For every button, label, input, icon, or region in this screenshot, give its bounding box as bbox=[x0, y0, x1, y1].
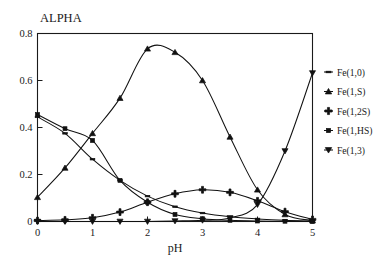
legend-item-label: Fe(1,3) bbox=[337, 145, 365, 157]
x-axis-title: pH bbox=[168, 241, 183, 255]
x-tick-label: 3 bbox=[200, 227, 205, 238]
data-point-square-icon bbox=[283, 219, 287, 223]
chart-canvas: ALPHA 00.20.40.60.8 012345 pH Fe(1,0)Fe(… bbox=[0, 0, 390, 266]
data-point-square-icon bbox=[146, 200, 150, 204]
data-point-square-icon bbox=[173, 213, 177, 217]
data-point-plus-icon bbox=[282, 208, 289, 215]
data-point-triangle-up-icon bbox=[172, 49, 178, 54]
legend-item-fe-1-0-[interactable]: Fe(1,0) bbox=[324, 67, 365, 79]
legend-item-fe-1-s-[interactable]: Fe(1,S) bbox=[324, 86, 366, 98]
data-point-square-icon bbox=[311, 220, 315, 224]
alpha-speciation-chart: ALPHA 00.20.40.60.8 012345 pH Fe(1,0)Fe(… bbox=[0, 0, 390, 266]
legend-item-label: Fe(1,S) bbox=[337, 86, 366, 98]
data-point-dash-icon bbox=[63, 133, 68, 135]
data-point-triangle-down-icon bbox=[282, 149, 288, 154]
x-tick-label: 2 bbox=[145, 227, 150, 238]
x-tick-label: 1 bbox=[90, 227, 95, 238]
data-point-triangle-down-icon bbox=[309, 71, 315, 76]
x-tick-label: 4 bbox=[255, 227, 261, 238]
data-point-triangle-up-icon bbox=[254, 187, 260, 192]
y-tick-label: 0.6 bbox=[19, 75, 32, 86]
y-tick-label: 0.4 bbox=[19, 122, 33, 133]
y-tick-label: 0.8 bbox=[19, 28, 32, 39]
data-point-dash-icon bbox=[145, 195, 150, 197]
data-markers-group bbox=[34, 46, 316, 225]
legend-item-fe-1-2s-[interactable]: Fe(1,2S) bbox=[324, 106, 370, 118]
data-point-square-icon bbox=[36, 113, 40, 117]
data-point-triangle-up-icon bbox=[227, 134, 233, 139]
legend: Fe(1,0)Fe(1,S)Fe(1,2S)Fe(1,HS)Fe(1,3) bbox=[324, 67, 372, 157]
data-point-dash-icon bbox=[200, 212, 205, 214]
y-axis-tick-labels: 00.20.40.60.8 bbox=[19, 28, 33, 227]
legend-marker-square-icon bbox=[326, 128, 330, 132]
data-point-plus-icon bbox=[227, 189, 234, 196]
legend-marker-dash-icon bbox=[326, 71, 331, 73]
legend-item-label: Fe(1,0) bbox=[337, 67, 365, 79]
page-title: ALPHA bbox=[40, 11, 82, 25]
legend-marker-plus-icon bbox=[325, 107, 332, 114]
data-point-square-icon bbox=[118, 178, 122, 182]
data-point-plus-icon bbox=[172, 190, 179, 197]
data-point-triangle-up-icon bbox=[199, 78, 205, 83]
data-point-square-icon bbox=[91, 138, 95, 142]
x-tick-label: 0 bbox=[35, 227, 40, 238]
data-point-square-icon bbox=[256, 219, 260, 223]
legend-item-fe-1-3-[interactable]: Fe(1,3) bbox=[324, 145, 365, 157]
data-point-dash-icon bbox=[173, 206, 178, 208]
x-axis-tick-labels: 012345 bbox=[35, 227, 315, 238]
y-tick-label: 0.2 bbox=[19, 169, 32, 180]
data-point-triangle-up-icon bbox=[117, 95, 123, 100]
data-point-square-icon bbox=[63, 127, 67, 131]
legend-item-label: Fe(1,HS) bbox=[337, 125, 372, 137]
data-point-plus-icon bbox=[199, 186, 206, 193]
legend-item-label: Fe(1,2S) bbox=[337, 106, 370, 118]
y-tick-label: 0 bbox=[27, 216, 32, 227]
data-point-dash-icon bbox=[90, 158, 95, 160]
legend-item-fe-1-hs-[interactable]: Fe(1,HS) bbox=[324, 125, 372, 137]
series-line-fe-1-3- bbox=[38, 73, 313, 222]
x-tick-label: 5 bbox=[310, 227, 315, 238]
data-point-plus-icon bbox=[117, 209, 124, 216]
